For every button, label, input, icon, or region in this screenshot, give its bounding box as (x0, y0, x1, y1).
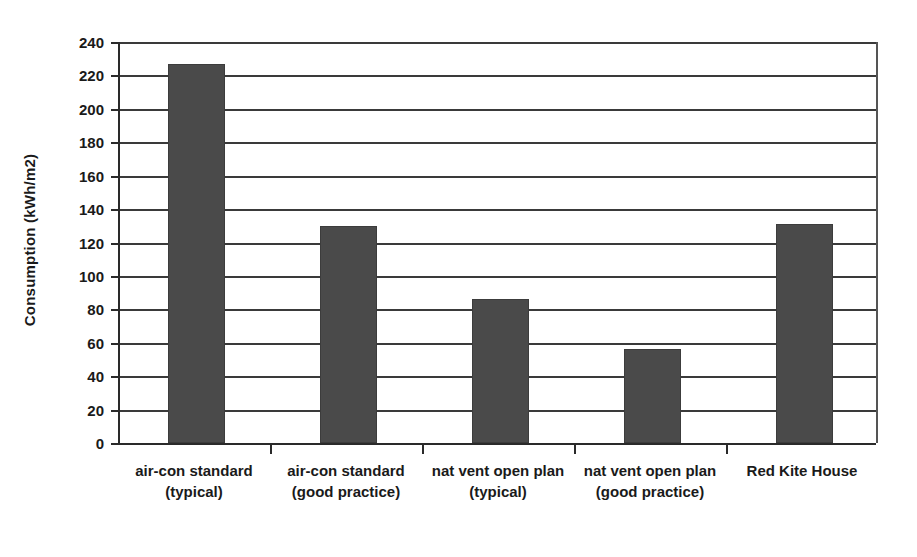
gridline (120, 75, 876, 77)
gridline (120, 276, 876, 278)
y-axis-tick-label: 240 (52, 34, 104, 51)
bar (320, 226, 377, 443)
y-axis-tick-label: 200 (52, 100, 104, 117)
y-axis-tick-label: 220 (52, 67, 104, 84)
y-axis-tick-label: 60 (52, 334, 104, 351)
y-axis-tick-label: 0 (52, 435, 104, 452)
chart-page: Consumption (kWh/m2) 2402202001801601401… (0, 0, 917, 557)
y-axis-tick (111, 343, 120, 345)
y-axis-tick-label: 140 (52, 201, 104, 218)
x-axis-tick (574, 443, 576, 454)
y-axis-title: Consumption (kWh/m2) (21, 154, 38, 326)
y-axis-tick (111, 142, 120, 144)
y-axis-tick-label: 160 (52, 167, 104, 184)
x-axis-ticks-group (118, 443, 878, 457)
x-axis-tick (726, 443, 728, 454)
y-axis-tick-label: 20 (52, 401, 104, 418)
y-axis-tick-label: 100 (52, 267, 104, 284)
y-axis-tick (111, 410, 120, 412)
y-axis-tick-label: 180 (52, 134, 104, 151)
y-axis-tick (111, 309, 120, 311)
y-axis-tick-label: 80 (52, 301, 104, 318)
gridline (120, 243, 876, 245)
y-axis-tick-label: 40 (52, 368, 104, 385)
gridline (120, 109, 876, 111)
y-axis-tick-label: 120 (52, 234, 104, 251)
x-axis-tick-labels: air-con standard (typical)air-con standa… (118, 460, 878, 555)
gridline (120, 209, 876, 211)
x-axis-tick (270, 443, 272, 454)
y-axis-tick (111, 42, 120, 44)
y-axis-tick (111, 243, 120, 245)
bar (472, 299, 529, 443)
gridline (120, 42, 876, 44)
x-axis-tick-label: air-con standard (good practice) (274, 460, 418, 503)
y-axis-tick (111, 209, 120, 211)
y-axis-tick (111, 176, 120, 178)
y-axis-tick (111, 109, 120, 111)
y-axis-tick (111, 276, 120, 278)
x-axis-tick-label: nat vent open plan (good practice) (578, 460, 722, 503)
y-axis-tick (111, 376, 120, 378)
bar (168, 64, 225, 443)
gridline (120, 142, 876, 144)
y-axis-title-container: Consumption (kWh/m2) (14, 40, 44, 440)
y-axis-tick-labels: 240220200180160140120100806040200 (52, 42, 104, 443)
y-axis-tick (111, 75, 120, 77)
gridline (120, 176, 876, 178)
x-axis-tick-label: nat vent open plan (typical) (426, 460, 570, 503)
x-axis-tick-label: Red Kite House (730, 460, 874, 481)
bar (776, 224, 833, 443)
x-axis-tick-label: air-con standard (typical) (122, 460, 266, 503)
x-axis-tick (422, 443, 424, 454)
bar (624, 349, 681, 443)
plot-area (118, 42, 878, 443)
